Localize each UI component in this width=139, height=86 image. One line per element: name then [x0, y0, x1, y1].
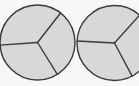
circle-right [77, 6, 139, 81]
circle-left [0, 5, 75, 80]
fraction-circles-figure [0, 0, 139, 86]
fraction-circles-svg [0, 0, 139, 86]
